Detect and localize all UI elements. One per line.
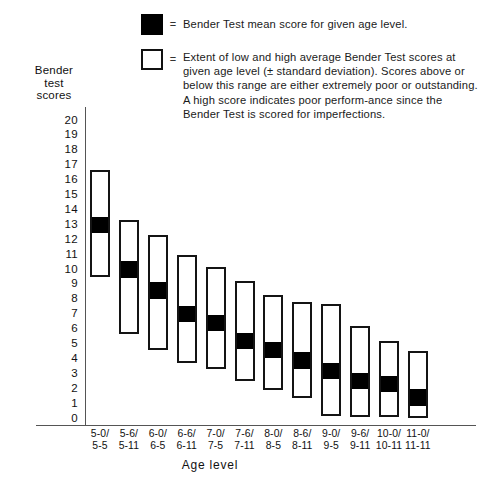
x-tick-line-2: 11-11 — [394, 440, 442, 452]
bender-test-chart-figure: = Bender Test mean score for given age l… — [0, 0, 491, 493]
bar-mean-marker — [410, 389, 426, 405]
bar-mean-marker — [294, 352, 310, 368]
bar-range — [350, 326, 370, 417]
bar-range — [235, 281, 255, 381]
bar-mean-marker — [381, 376, 397, 392]
bar-mean-marker — [208, 315, 224, 331]
bar-mean-marker — [265, 342, 281, 358]
plot-area: 20191817161514131211109876543210 — [0, 0, 491, 493]
bar-mean-marker — [150, 282, 166, 298]
bar-range — [321, 304, 341, 416]
bar-series-group — [0, 0, 491, 493]
x-tick-line-1: 11-0/ — [394, 428, 442, 440]
bar-mean-marker — [237, 333, 253, 349]
bar-mean-marker — [179, 306, 195, 322]
bar-mean-marker — [352, 373, 368, 389]
bar-range — [292, 302, 312, 397]
x-axis-tick-11-0/11-11: 11-0/11-11 — [394, 428, 442, 453]
bar-range — [408, 351, 428, 418]
bar-mean-marker — [92, 217, 108, 233]
bar-mean-marker — [121, 261, 137, 277]
x-axis-title: Age level — [0, 458, 420, 472]
bar-mean-marker — [323, 363, 339, 379]
